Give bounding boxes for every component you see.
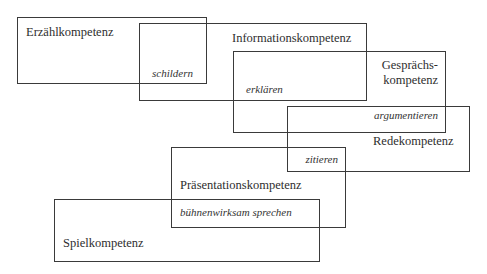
overlap-label-zitieren: zitieren <box>290 153 338 165</box>
label-gespraechskompetenz-line2: kompetenz <box>360 73 438 87</box>
overlap-label-argumentieren: argumentieren <box>340 109 438 121</box>
overlap-label-erklaeren: erklären <box>246 83 283 95</box>
overlap-label-buehnenwirksam-sprechen: bühnenwirksam sprechen <box>180 206 292 218</box>
label-praesentationskompetenz: Präsentationskompetenz <box>180 178 302 192</box>
label-erzaehlkompetenz: Erzählkompetenz <box>26 25 113 39</box>
overlap-label-schildern: schildern <box>152 67 193 79</box>
label-informationskompetenz: Informationskompetenz <box>232 31 351 45</box>
label-spielkompetenz: Spielkompetenz <box>63 236 144 250</box>
label-gespraechskompetenz-line1: Gesprächs- <box>360 58 438 72</box>
label-redekompetenz: Redekompetenz <box>373 134 454 148</box>
